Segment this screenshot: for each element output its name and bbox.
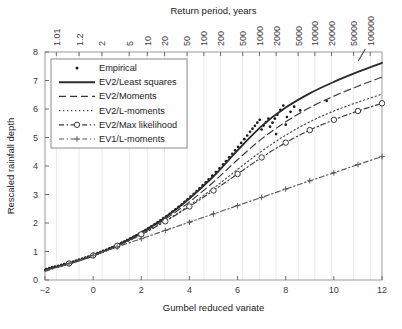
top-axis-ticks: [56, 52, 370, 56]
x-tick-label: 2: [139, 285, 144, 295]
y-tick-label: 3: [33, 190, 38, 200]
top-tick-label: 500: [238, 31, 248, 46]
top-tick-label: 20: [160, 36, 170, 46]
top-axis-tick-labels: 1.011.2251020501002005001000200050001000…: [52, 16, 376, 46]
y-tick-label: 4: [33, 161, 38, 171]
legend-label: EV2/Max likelihood: [99, 120, 177, 130]
y-axis-ticks: [45, 52, 49, 280]
x-tick-label: 8: [283, 285, 288, 295]
x-tick-label: 0: [91, 285, 96, 295]
top-tick-label: 2000: [272, 26, 282, 46]
top-tick-label: 50000: [349, 21, 359, 46]
top-axis-title: Return period, years: [170, 5, 256, 16]
x-tick-label: 6: [235, 285, 240, 295]
top-tick-label: 10: [143, 36, 153, 46]
y-tick-label: 8: [33, 47, 38, 57]
legend-label: EV2/Moments: [99, 91, 157, 101]
top-tick-label: 10000: [310, 21, 320, 46]
legend: EmpiricalEV2/Least squaresEV2/MomentsEV2…: [51, 59, 187, 148]
top-tick-label: 20000: [327, 21, 337, 46]
x-axis-title: Gumbel reduced variate: [163, 302, 264, 313]
y-axis-title: Rescaled rainfall depth: [5, 118, 16, 215]
legend-label: EV1/L-moments: [99, 134, 165, 144]
top-tick-label: 1.2: [75, 33, 85, 46]
top-tick-label: 2: [97, 41, 107, 46]
top-tick-label: 100: [199, 31, 209, 46]
y-tick-label: 0: [33, 275, 38, 285]
x-axis-tick-labels: −2024681012: [40, 285, 387, 295]
top-tick-label: 200: [216, 31, 226, 46]
top-tick-label: 50: [182, 36, 192, 46]
x-tick-label: 10: [329, 285, 339, 295]
top-tick-label: 5000: [294, 26, 304, 46]
x-tick-label: −2: [40, 285, 50, 295]
axis-break-mark: [358, 49, 365, 61]
y-tick-label: 1: [33, 247, 38, 257]
y-tick-label: 7: [33, 76, 38, 86]
y-tick-label: 6: [33, 104, 38, 114]
top-tick-label: 5: [125, 41, 135, 46]
legend-label: Empirical: [99, 63, 137, 73]
y-axis-tick-labels: 012345678: [33, 47, 38, 285]
y-tick-label: 2: [33, 218, 38, 228]
x-tick-label: 12: [377, 285, 387, 295]
legend-label: EV2/Least squares: [99, 77, 177, 87]
y-tick-label: 5: [33, 133, 38, 143]
chart-figure: 1.011.2251020501002005001000200050001000…: [0, 0, 402, 329]
top-tick-label: 1.01: [52, 28, 62, 46]
chart-canvas: 1.011.2251020501002005001000200050001000…: [0, 0, 402, 329]
legend-label: EV2/L-moments: [99, 106, 165, 116]
x-tick-label: 4: [187, 285, 192, 295]
top-tick-label: 1000: [255, 26, 265, 46]
top-tick-label: 100000: [366, 16, 376, 46]
